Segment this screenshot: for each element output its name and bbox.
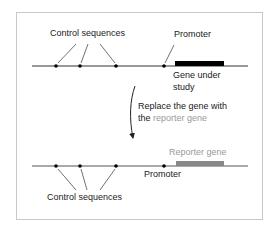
promoter-label-bottom: Promoter: [144, 169, 181, 180]
reporter-gene-bar: [176, 161, 224, 166]
reporter-gene-label: Reporter gene: [169, 147, 227, 158]
control-sequences-label-bottom: Control sequences: [47, 192, 122, 203]
control-site-2: [78, 164, 82, 168]
replace-text-line2: the reporter gene: [138, 113, 207, 124]
control-site-2: [78, 64, 82, 68]
replace-arrow-icon: [131, 86, 135, 138]
replace-text-line1: Replace the gene with: [138, 101, 227, 112]
gene-under-study-label-2: study: [173, 82, 195, 93]
bottom-dna-strand: [32, 161, 248, 190]
control-site-1: [54, 164, 58, 168]
promoter-site: [162, 164, 166, 168]
promoter-label-top: Promoter: [174, 29, 211, 40]
promoter-site: [162, 64, 166, 68]
reporter-gene-highlight: reporter gene: [153, 113, 207, 123]
gene-under-study-label-1: Gene under: [173, 70, 221, 81]
top-dna-strand: [32, 44, 248, 68]
control-sequences-label-top: Control sequences: [50, 28, 125, 39]
control-site-3: [114, 164, 118, 168]
control-site-1: [54, 64, 58, 68]
control-site-3: [114, 64, 118, 68]
replace-text-prefix: the: [138, 113, 151, 123]
gene-under-study-bar: [175, 61, 224, 66]
